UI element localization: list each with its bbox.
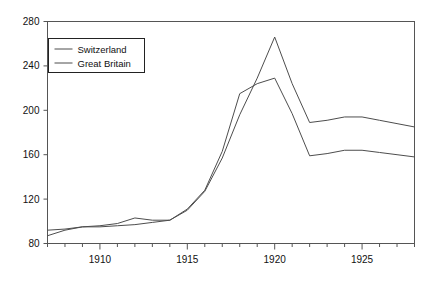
legend-label-switzerland: Switzerland [78,44,127,55]
y-axis-tick-label: 240 [23,60,40,71]
y-axis-tick-label: 160 [23,149,40,160]
y-axis-tick-label: 80 [28,238,40,249]
y-axis-tick-label: 280 [23,16,40,27]
y-axis-tick-label: 200 [23,105,40,116]
x-axis-tick-label: 1925 [351,254,374,265]
chart-canvas: 801201602002402801910191519201925Switzer… [0,0,429,283]
legend-label-great-britain: Great Britain [78,58,131,69]
x-axis-tick-label: 1915 [176,254,199,265]
line-chart: 801201602002402801910191519201925Switzer… [0,0,429,283]
series-line-great-britain [48,78,415,236]
y-axis-tick-label: 120 [23,194,40,205]
x-axis-tick-label: 1920 [264,254,287,265]
x-axis-tick-label: 1910 [89,254,112,265]
